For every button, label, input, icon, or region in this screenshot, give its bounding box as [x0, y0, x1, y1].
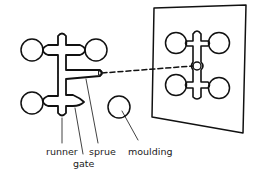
label-moulding: moulding [128, 147, 172, 157]
label-gate: gate [73, 159, 94, 169]
label-runner: runner [46, 147, 78, 157]
dashed-projection-line [102, 66, 193, 73]
moulding-circle-top-right [85, 39, 107, 61]
label-sprue: sprue [89, 147, 116, 157]
mould-cavities [166, 31, 230, 99]
moulding-circle-loose [108, 96, 130, 118]
sprue-leader [86, 79, 98, 143]
moulding-circle-bottom-left [21, 92, 43, 114]
injection-moulding-diagram: runner gate sprue moulding [0, 0, 257, 177]
moulding-leader [122, 111, 138, 140]
runner-tree [21, 34, 107, 116]
moulding-circle-top-left [21, 39, 43, 61]
